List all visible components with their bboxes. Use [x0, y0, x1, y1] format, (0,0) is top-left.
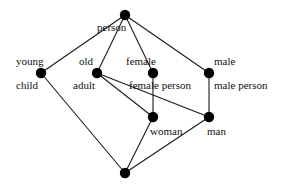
node-woman	[148, 112, 158, 122]
node-bottom	[120, 168, 130, 178]
label-adult: adult	[73, 79, 95, 91]
label-child: child	[16, 79, 38, 91]
label-old: old	[79, 55, 94, 67]
label-female: female	[126, 55, 156, 67]
node-man	[204, 112, 214, 122]
label-female-person: female person	[129, 79, 191, 91]
labels: person young child old adult female fema…	[16, 21, 268, 137]
nodes	[36, 10, 214, 178]
node-adult	[92, 68, 102, 78]
label-woman: woman	[150, 125, 183, 137]
edges	[41, 15, 209, 173]
node-male-person	[204, 68, 214, 78]
node-person	[120, 10, 130, 20]
node-child	[36, 68, 46, 78]
label-person: person	[97, 21, 127, 33]
node-female-person	[148, 68, 158, 78]
concept-lattice-diagram: person young child old adult female fema…	[0, 0, 283, 189]
label-man: man	[207, 125, 226, 137]
label-male: male	[214, 55, 235, 67]
edge-woman-bottom	[125, 117, 153, 173]
label-male-person: male person	[214, 79, 268, 91]
label-young: young	[16, 55, 44, 67]
